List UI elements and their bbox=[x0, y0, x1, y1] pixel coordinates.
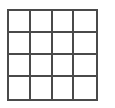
grid-cell-r3-c0[interactable] bbox=[9, 77, 31, 99]
grid-cell-r0-c3[interactable] bbox=[74, 11, 96, 33]
grid-cell-r1-c0[interactable] bbox=[9, 33, 31, 55]
grid-cell-r0-c2[interactable] bbox=[53, 11, 75, 33]
grid-cell-r2-c1[interactable] bbox=[31, 55, 53, 77]
grid-cell-r3-c2[interactable] bbox=[53, 77, 75, 99]
grid-cell-r0-c1[interactable] bbox=[31, 11, 53, 33]
grid-cell-r3-c3[interactable] bbox=[74, 77, 96, 99]
grid-cell-r3-c1[interactable] bbox=[31, 77, 53, 99]
grid-cell-r1-c3[interactable] bbox=[74, 33, 96, 55]
grid-cell-r2-c2[interactable] bbox=[53, 55, 75, 77]
grid-board bbox=[7, 9, 98, 101]
grid-cell-r2-c3[interactable] bbox=[74, 55, 96, 77]
grid-cell-r1-c2[interactable] bbox=[53, 33, 75, 55]
grid-cell-r2-c0[interactable] bbox=[9, 55, 31, 77]
grid-cell-r1-c1[interactable] bbox=[31, 33, 53, 55]
grid-cell-r0-c0[interactable] bbox=[9, 11, 31, 33]
